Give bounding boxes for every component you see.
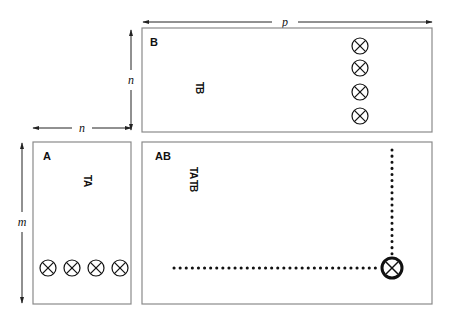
matrix-b-transposed-label: T B (194, 82, 205, 94)
matrix-ab-label: AB (155, 150, 171, 162)
dimension-m-label: m (18, 215, 27, 229)
svg-text:B: B (188, 185, 199, 192)
dimension-n-horizontal-arrow: n (33, 121, 131, 135)
matrix-b: B T B (142, 28, 432, 132)
svg-text:A: A (188, 172, 199, 179)
matrix-a-transposed-label: T A (82, 175, 93, 187)
dimension-n-vertical-label: n (128, 73, 134, 87)
matrix-multiplication-diagram: p n n m B T B A T (0, 0, 450, 320)
matrix-b-label: B (150, 36, 158, 48)
matrix-ab: AB T A T B (142, 142, 432, 304)
matrix-ab-transposed-label: T A T B (188, 167, 199, 192)
dimension-p-label: p (281, 15, 288, 29)
dimension-n-vertical-arrow: n (128, 30, 134, 130)
dimension-p-arrow: p (143, 15, 432, 29)
svg-text:A: A (82, 180, 93, 187)
matrix-a: A T A (33, 142, 131, 304)
matrix-a-label: A (43, 150, 51, 162)
svg-text:B: B (194, 87, 205, 94)
dimension-m-arrow: m (18, 143, 27, 303)
result-otimes-icon (382, 258, 402, 278)
dimension-n-horizontal-label: n (79, 121, 85, 135)
